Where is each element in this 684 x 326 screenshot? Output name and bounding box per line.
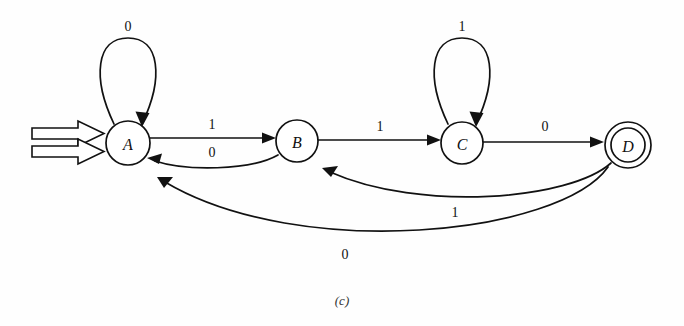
transition-d-a-path <box>165 167 608 231</box>
transition-c-d-arrowhead-icon <box>590 137 604 148</box>
transition-a-a: 0 <box>100 19 156 128</box>
start-arrow-upper-icon <box>32 121 104 146</box>
transition-a-b: 1 <box>150 117 276 144</box>
transition-b-a-label: 0 <box>209 145 216 160</box>
start-arrow-lower-icon <box>32 139 104 164</box>
transition-b-c-label: 1 <box>377 119 384 134</box>
transition-d-b-path <box>330 163 611 197</box>
transition-b-c: 1 <box>318 119 441 146</box>
state-node-a[interactable]: A <box>106 121 150 165</box>
transition-c-d: 0 <box>483 119 604 148</box>
transition-c-c-label: 1 <box>459 19 466 34</box>
transition-b-c-arrowhead-icon <box>427 135 441 146</box>
transition-c-d-label: 0 <box>542 119 549 134</box>
state-d-label: D <box>621 138 634 155</box>
state-node-d[interactable]: D <box>605 122 651 168</box>
transition-c-c: 1 <box>434 19 490 128</box>
state-node-b[interactable]: B <box>276 120 318 162</box>
transition-a-a-label: 0 <box>125 19 132 34</box>
transition-d-a-label: 0 <box>342 247 349 262</box>
state-c-label: C <box>457 136 468 153</box>
transition-d-b: 1 <box>322 163 611 220</box>
transition-a-b-arrowhead-icon <box>262 133 276 144</box>
transition-b-a: 0 <box>147 145 278 168</box>
transition-d-a-arrowhead-icon <box>157 177 173 188</box>
start-arrow <box>32 121 104 164</box>
transition-d-b-label: 1 <box>452 205 459 220</box>
figure-container: 0 1 0 1 1 0 <box>0 0 684 326</box>
transition-a-b-label: 1 <box>209 117 216 132</box>
transition-d-a: 0 <box>157 167 608 262</box>
state-a-label: A <box>122 136 133 153</box>
state-node-c[interactable]: C <box>441 122 483 164</box>
transition-a-a-path <box>100 38 156 124</box>
state-b-label: B <box>292 134 302 151</box>
state-machine-diagram: 0 1 0 1 1 0 <box>0 0 684 326</box>
transition-b-a-path <box>155 155 278 168</box>
figure-caption: (c) <box>335 293 349 308</box>
transition-c-c-path <box>434 38 490 124</box>
transition-d-b-arrowhead-icon <box>322 166 338 177</box>
